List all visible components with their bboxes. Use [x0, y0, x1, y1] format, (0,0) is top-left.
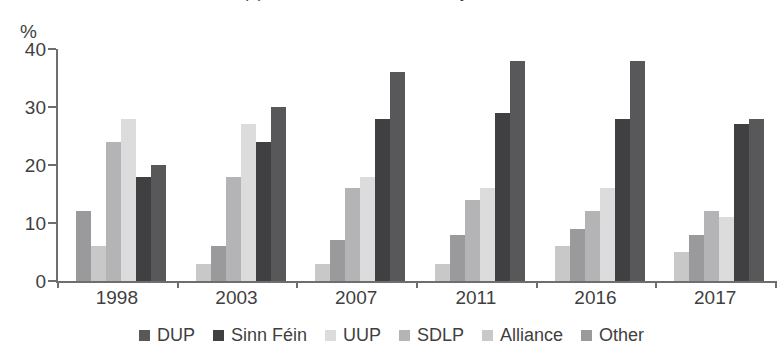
- y-axis-tick-label: 0: [35, 272, 46, 291]
- y-axis-tick-mark: [48, 48, 56, 50]
- legend-item-label: Other: [599, 326, 644, 344]
- legend-swatch-icon: [399, 330, 410, 341]
- y-axis-tick-mark: [48, 222, 56, 224]
- y-axis-tick-label: 20: [25, 156, 46, 175]
- bar: [315, 264, 330, 281]
- bar: [495, 113, 510, 281]
- x-axis-tick-label: 2017: [694, 288, 736, 307]
- legend-item[interactable]: Other: [581, 326, 644, 344]
- x-axis-tick-mark: [57, 281, 59, 288]
- bar: [674, 252, 689, 281]
- x-axis-tick-mark: [177, 281, 179, 288]
- bar: [450, 235, 465, 281]
- bar: [719, 217, 734, 281]
- legend-item-label: Sinn Féin: [231, 326, 307, 344]
- x-axis-tick-label: 2016: [574, 288, 616, 307]
- bar: [330, 240, 345, 281]
- x-axis-tick-mark: [775, 281, 777, 288]
- bar: [226, 177, 241, 281]
- x-axis-tick-mark: [655, 281, 657, 288]
- bar: [76, 211, 91, 281]
- legend-item[interactable]: UUP: [325, 326, 381, 344]
- legend-swatch-icon: [482, 330, 493, 341]
- bar: [136, 177, 151, 281]
- x-axis-tick-mark: [416, 281, 418, 288]
- legend-item[interactable]: Sinn Féin: [213, 326, 307, 344]
- legend-item-label: SDLP: [417, 326, 464, 344]
- bar: [630, 61, 645, 281]
- bar: [121, 119, 136, 281]
- bar: [211, 246, 226, 281]
- bar: [435, 264, 450, 281]
- bar: [600, 188, 615, 281]
- legend-item-label: UUP: [343, 326, 381, 344]
- x-axis-tick-label: 1998: [96, 288, 138, 307]
- y-axis-tick-label: 10: [25, 214, 46, 233]
- plot-area: [57, 49, 775, 281]
- bar: [704, 211, 719, 281]
- legend-swatch-icon: [139, 330, 150, 341]
- bar: [256, 142, 271, 281]
- x-axis-tick-mark: [296, 281, 298, 288]
- bar: [465, 200, 480, 281]
- x-axis-tick-label: 2011: [455, 288, 496, 307]
- legend-swatch-icon: [581, 330, 592, 341]
- legend-swatch-icon: [213, 330, 224, 341]
- bar: [375, 119, 390, 281]
- legend-item[interactable]: DUP: [139, 326, 195, 344]
- bar: [345, 188, 360, 281]
- bar: [555, 246, 570, 281]
- legend-item-label: DUP: [157, 326, 195, 344]
- y-axis-tick-mark: [48, 106, 56, 108]
- bar: [360, 177, 375, 281]
- bar: [390, 72, 405, 281]
- bar: [91, 246, 106, 281]
- y-axis-tick-mark: [48, 280, 56, 282]
- y-axis-tick-label: 30: [25, 98, 46, 117]
- x-axis-tick-mark: [536, 281, 538, 288]
- x-axis-tick-label: 2007: [335, 288, 377, 307]
- bar: [689, 235, 704, 281]
- y-axis-tick-mark: [48, 164, 56, 166]
- legend-item[interactable]: SDLP: [399, 326, 464, 344]
- bar: [196, 264, 211, 281]
- bar: [480, 188, 495, 281]
- y-axis-tick-label: 40: [25, 40, 46, 59]
- legend-item-label: Alliance: [500, 326, 563, 344]
- legend-item[interactable]: Alliance: [482, 326, 563, 344]
- bar: [241, 124, 256, 281]
- bar: [570, 229, 585, 281]
- bar: [510, 61, 525, 281]
- bar: [585, 211, 600, 281]
- bar: [106, 142, 121, 281]
- bar: [734, 124, 749, 281]
- legend-swatch-icon: [325, 330, 336, 341]
- bar: [271, 107, 286, 281]
- bar: [615, 119, 630, 281]
- bar: [749, 119, 764, 281]
- chart-legend: DUPSinn FéinUUPSDLPAllianceOther: [0, 326, 783, 344]
- x-axis-tick-label: 2003: [215, 288, 257, 307]
- bar: [151, 165, 166, 281]
- bar-chart: % 010203040 199820032007201120162017: [0, 0, 783, 318]
